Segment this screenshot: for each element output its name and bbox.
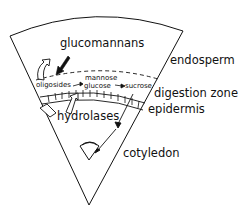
label-glucose: glucose [84,83,111,90]
label-cotyledon: cotyledon [123,148,180,160]
label-digestion-zone: digestion zone [154,88,238,100]
label-epidermis: epidermis [148,104,205,116]
label-endosperm: endosperm [170,55,235,67]
label-mannose: mannose [85,75,117,82]
epidermis-band [40,90,145,110]
glucomannans-arrow [56,56,70,75]
label-glucomannans: glucomannans [60,38,144,50]
label-sucrose: sucrose [125,83,152,90]
label-hydrolases: hydrolases [57,111,119,123]
label-oligosides: oligosides [36,82,71,89]
sucrose-to-cotyledon-arrow [95,94,133,153]
